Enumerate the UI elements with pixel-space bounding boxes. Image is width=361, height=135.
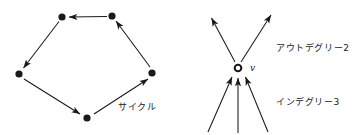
vertex-v-label: v (250, 63, 255, 73)
outdegree-label: アウトデグリー2 (276, 42, 350, 53)
cycle-node (148, 69, 155, 76)
cycle-node (83, 114, 90, 121)
vertex-v-node (235, 65, 242, 72)
canvas-background (0, 0, 361, 135)
cycle-node (58, 13, 65, 20)
cycle-caption-label: サイクル (118, 102, 156, 112)
cycle-edge-n2-n1 (69, 17, 107, 18)
cycle-node (108, 12, 115, 19)
graph-theory-figure: サイクル v アウトデグリー2 インデグリー3 (0, 0, 361, 135)
indegree-label: インデグリー3 (276, 96, 340, 107)
cycle-node (15, 70, 22, 77)
